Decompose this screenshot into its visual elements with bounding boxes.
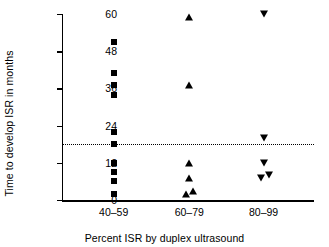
- data-point: [260, 159, 268, 166]
- data-point: [111, 178, 117, 184]
- data-point: [111, 70, 117, 76]
- x-tick-label: 60–79: [175, 206, 204, 218]
- data-point: [111, 39, 117, 45]
- y-tick-label: 48: [105, 45, 117, 57]
- data-point: [185, 82, 193, 89]
- y-tick-label: 60: [105, 8, 117, 20]
- data-point: [185, 175, 193, 182]
- data-point: [265, 172, 273, 179]
- data-point: [111, 129, 117, 135]
- data-point: [189, 187, 197, 194]
- data-point: [111, 191, 117, 197]
- y-axis-title: Time to develop ISR in months: [0, 0, 18, 247]
- plot-area: 01224364860 40–5960–7980–99: [62, 14, 314, 201]
- x-axis-title: Percent ISR by duplex ultrasound: [0, 232, 329, 244]
- data-point: [185, 14, 193, 21]
- y-tick-mark: [57, 163, 62, 164]
- y-tick-mark: [57, 126, 62, 127]
- y-tick-mark: [57, 14, 62, 15]
- y-tick-mark: [57, 200, 62, 201]
- data-point: [185, 159, 193, 166]
- data-point: [111, 160, 117, 166]
- data-point: [111, 141, 117, 147]
- data-point: [111, 169, 117, 175]
- scatter-chart-figure: Time to develop ISR in months 0122436486…: [0, 0, 329, 247]
- y-tick-mark: [57, 51, 62, 52]
- x-tick-label: 80–99: [249, 206, 278, 218]
- data-point: [111, 92, 117, 98]
- data-point: [257, 175, 265, 182]
- y-tick-mark: [57, 88, 62, 89]
- data-point: [260, 135, 268, 142]
- x-tick-label: 40–59: [99, 206, 128, 218]
- data-point: [111, 82, 117, 88]
- reference-line: [62, 144, 314, 145]
- data-point: [260, 11, 268, 18]
